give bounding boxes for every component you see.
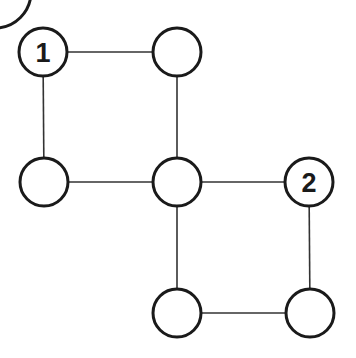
node-circle [153,28,201,76]
node-circle [153,289,201,337]
node-label: 1 [35,38,50,68]
partial-corner-circle [0,0,31,28]
graph-diagram: 12 [0,0,356,358]
node-label: 2 [301,168,316,198]
node-circle [153,158,201,206]
node-n2 [153,28,201,76]
node-n1: 1 [19,28,67,76]
node-n4 [153,158,201,206]
node-n3 [20,158,68,206]
graph-svg: 12 [0,0,356,358]
node-n6 [153,289,201,337]
node-n7 [286,289,334,337]
node-n5: 2 [285,158,333,206]
node-circle [286,289,334,337]
node-circle [20,158,68,206]
